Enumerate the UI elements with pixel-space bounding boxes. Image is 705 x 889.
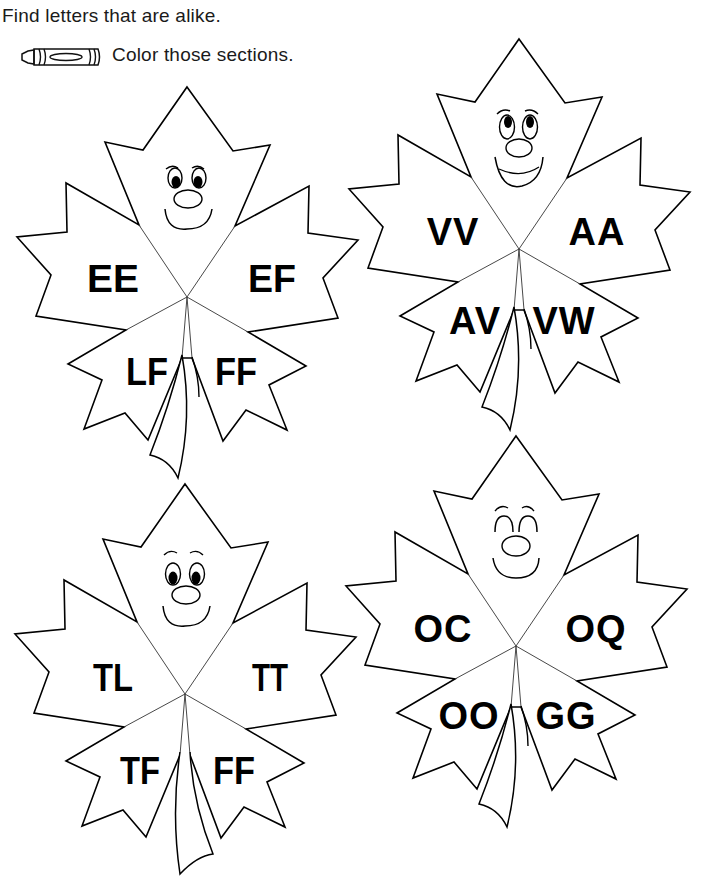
section-label-upper-left[interactable]: TL [93,657,133,699]
section-label-upper-left[interactable]: OC [414,608,473,650]
section-label-lower-right[interactable]: FF [213,750,255,792]
section-label-upper-right[interactable]: TT [252,657,288,699]
section-label-lower-left[interactable]: OO [438,695,499,737]
section-label-lower-left[interactable]: LF [126,351,168,393]
section-label-upper-left[interactable]: VV [427,211,480,253]
section-label-upper-right[interactable]: AA [569,211,626,253]
leaf-top-left: EE EF LF FF [17,87,358,478]
section-label-lower-left[interactable]: TF [120,750,160,792]
section-label-lower-left[interactable]: AV [449,300,501,342]
section-label-lower-right[interactable]: GG [535,695,596,737]
leaf-bottom-left: TL TT TF FF [15,484,356,874]
section-label-upper-left[interactable]: EE [87,258,139,300]
leaf-bottom-right: OC OQ OO GG [346,436,687,827]
section-label-lower-right[interactable]: VW [532,300,595,342]
worksheet: EE EF LF FF VV AA AV VW [0,0,705,889]
leaf-top-right: VV AA AV VW [349,39,690,430]
section-label-upper-right[interactable]: EF [248,258,296,300]
section-label-lower-right[interactable]: FF [215,351,257,393]
section-label-upper-right[interactable]: OQ [565,608,626,650]
